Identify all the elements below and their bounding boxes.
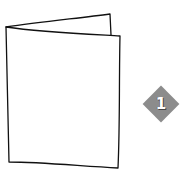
front-page-outline: [6, 27, 120, 168]
step-number: 1: [143, 86, 179, 122]
step-number-badge: 1: [143, 86, 179, 122]
